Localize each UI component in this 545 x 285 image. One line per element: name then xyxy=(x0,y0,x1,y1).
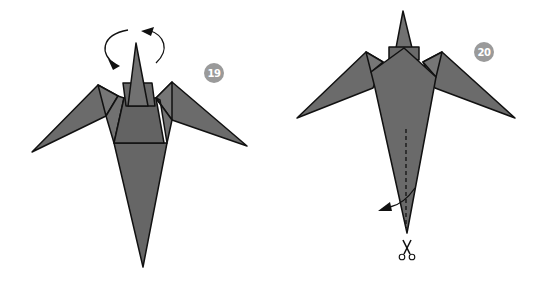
arrowhead-left-icon xyxy=(108,59,120,70)
step-number-badge: 19 xyxy=(204,63,224,83)
step-19-diagram: 19 xyxy=(0,0,272,285)
bird-model-step-19 xyxy=(0,0,272,285)
arrowhead-right-icon xyxy=(141,27,154,36)
rotate-arrow-left-icon xyxy=(105,30,128,64)
head-spike xyxy=(396,11,412,48)
scissors-icon xyxy=(399,240,415,260)
arrowhead-icon xyxy=(378,202,392,211)
tail xyxy=(114,143,167,267)
head-spike xyxy=(128,43,148,106)
body-front xyxy=(371,48,436,233)
step-20-diagram: 20 xyxy=(272,0,545,285)
step-number-badge: 20 xyxy=(474,42,494,62)
bird-model-step-20 xyxy=(272,0,545,285)
